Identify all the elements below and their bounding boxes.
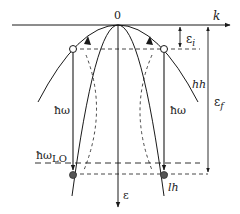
band-diagram: 0 k ε hh lh εi εf ħω ħω ħωLO — [0, 0, 240, 214]
initial-state-left — [70, 46, 77, 53]
final-energy-label: εf — [214, 95, 225, 111]
initial-energy-label: εi — [186, 32, 195, 48]
hh-label: hh — [192, 78, 206, 91]
k-axis-label: k — [213, 9, 220, 23]
origin-label: 0 — [114, 9, 121, 22]
initial-state-right — [161, 46, 168, 53]
phonon-label-left: ħω — [54, 104, 70, 117]
lo-phonon-label: ħωLO — [36, 149, 67, 164]
final-state-right — [161, 172, 168, 179]
arrow-marker-left — [84, 36, 91, 45]
final-state-left — [70, 172, 77, 179]
lh-label: lh — [168, 181, 179, 194]
energy-axis-label: ε — [123, 189, 129, 202]
arrow-marker-right — [146, 36, 153, 45]
scattering-path-left — [84, 55, 97, 170]
phonon-label-right: ħω — [170, 104, 186, 117]
